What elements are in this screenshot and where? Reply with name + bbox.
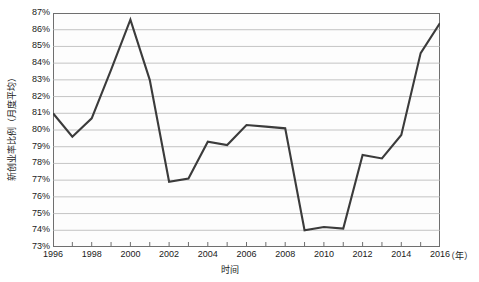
y-axis-tick-label: 83%: [20, 75, 50, 84]
y-axis-tick-label: 75%: [20, 209, 50, 218]
x-axis-tick-label: 1998: [72, 250, 112, 259]
y-axis-tick-label: 86%: [20, 25, 50, 34]
y-axis-tick-label: 80%: [20, 125, 50, 134]
x-axis-ticks: [53, 242, 440, 247]
x-axis-tick-label: 2006: [227, 250, 267, 259]
x-axis-tick-label: 2000: [110, 250, 150, 259]
x-axis-tick-label: 2014: [381, 250, 421, 259]
y-axis-tick-label: 82%: [20, 92, 50, 101]
x-axis-tick-label: 2002: [149, 250, 189, 259]
x-axis-unit-label: （年）: [446, 249, 473, 262]
x-axis-tick-label: 2010: [304, 250, 344, 259]
x-axis-tick-label: 2008: [265, 250, 305, 259]
y-axis-tick-label: 76%: [20, 192, 50, 201]
y-axis-tick-label: 78%: [20, 158, 50, 167]
grid-lines: [53, 30, 440, 231]
x-axis-tick-label: 2012: [343, 250, 383, 259]
y-axis-tick-labels: 87%86%85%84%83%82%81%80%79%78%77%76%75%7…: [18, 0, 50, 282]
data-series-line: [53, 20, 440, 231]
x-axis-tick-labels: 1996199820002002200420062008201020122014…: [0, 250, 479, 264]
y-axis-tick-label: 81%: [20, 108, 50, 117]
y-axis-tick-label: 79%: [20, 142, 50, 151]
y-axis-tick-label: 84%: [20, 58, 50, 67]
line-chart: 新创业率比例（月度平均） 87%86%85%84%83%82%81%80%79%…: [0, 0, 479, 282]
x-axis-tick-label: 2004: [188, 250, 228, 259]
y-axis-tick-label: 87%: [20, 8, 50, 17]
plot-svg: [53, 13, 440, 247]
x-axis-tick-label: 1996: [33, 250, 73, 259]
y-axis-tick-label: 85%: [20, 41, 50, 50]
x-axis-title: 时间: [0, 263, 460, 276]
y-axis-tick-label: 74%: [20, 225, 50, 234]
y-axis-tick-label: 77%: [20, 175, 50, 184]
